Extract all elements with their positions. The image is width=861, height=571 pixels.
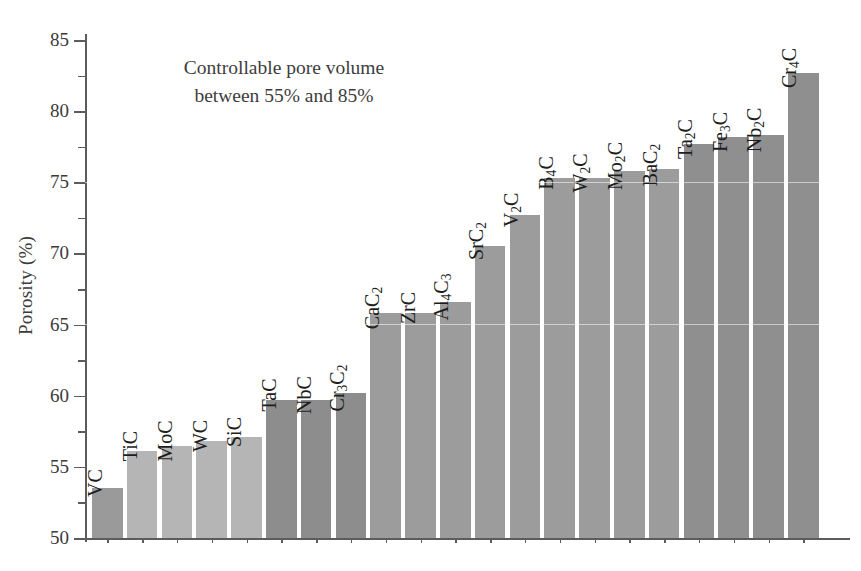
annotation-line-2: between 55% and 85% bbox=[148, 82, 420, 110]
y-tick-minor bbox=[78, 360, 85, 362]
bar: SiC bbox=[231, 437, 262, 538]
bar: W2C bbox=[579, 178, 610, 538]
bar: Al4C3 bbox=[440, 302, 471, 538]
bar-category-label: WC bbox=[189, 420, 212, 452]
x-tick bbox=[142, 538, 144, 543]
bar-category-label: Nb2C bbox=[744, 108, 769, 153]
y-tick-minor bbox=[78, 76, 85, 78]
bar-category-label: Cr4C bbox=[778, 48, 803, 88]
bar: CaC2 bbox=[370, 313, 401, 538]
y-tick-major: 70 bbox=[74, 253, 85, 255]
annotation-line-1: Controllable pore volume bbox=[148, 54, 420, 82]
bar-category-label: B4C bbox=[535, 156, 560, 189]
y-tick-minor bbox=[78, 502, 85, 504]
bar-category-label: ZrC bbox=[397, 292, 420, 324]
bar-category-label: Fe3C bbox=[709, 112, 734, 152]
x-tick bbox=[351, 538, 353, 543]
bar-category-label: BaC2 bbox=[639, 143, 664, 185]
y-tick-major: 60 bbox=[74, 396, 85, 398]
y-tick-label: 60 bbox=[50, 385, 69, 407]
plot-area: 5055606570758085 VCTiCMoCWCSiCTaCNbCCr3C… bbox=[85, 40, 850, 538]
bar-category-label: V2C bbox=[500, 193, 525, 228]
x-tick bbox=[734, 538, 736, 543]
x-tick bbox=[769, 538, 771, 543]
bar: BaC2 bbox=[649, 169, 680, 538]
y-tick-minor bbox=[78, 289, 85, 291]
bar: VC bbox=[92, 488, 123, 538]
y-tick-minor bbox=[78, 218, 85, 220]
x-tick bbox=[455, 538, 457, 543]
bar: V2C bbox=[510, 215, 541, 538]
bar: TiC bbox=[127, 451, 158, 538]
x-tick bbox=[177, 538, 179, 543]
x-tick bbox=[107, 538, 109, 543]
x-tick bbox=[525, 538, 527, 543]
bar-category-label: TiC bbox=[119, 431, 142, 461]
bar-category-label: Mo2C bbox=[604, 142, 629, 190]
y-tick-major: 50 bbox=[74, 538, 85, 540]
y-tick-label: 65 bbox=[50, 314, 69, 336]
bar: Fe3C bbox=[718, 137, 749, 538]
y-tick-label: 55 bbox=[50, 456, 69, 478]
bar-category-label: SrC2 bbox=[465, 222, 490, 260]
porosity-bar-chart: Porosity (%) 5055606570758085 VCTiCMoCWC… bbox=[0, 0, 861, 571]
y-tick-major: 75 bbox=[74, 182, 85, 184]
bar-category-label: VC bbox=[84, 469, 107, 497]
x-tick bbox=[212, 538, 214, 543]
bar-category-label: MoC bbox=[154, 420, 177, 461]
x-tick bbox=[629, 538, 631, 543]
bar: MoC bbox=[162, 446, 193, 538]
x-tick bbox=[595, 538, 597, 543]
y-tick-label: 85 bbox=[50, 29, 69, 51]
bar: TaC bbox=[266, 400, 297, 538]
annotation-controllable-pore-volume: Controllable pore volume between 55% and… bbox=[148, 54, 420, 109]
bar-category-label: TaC bbox=[258, 378, 281, 411]
x-tick bbox=[386, 538, 388, 543]
bar-category-label: W2C bbox=[570, 154, 595, 193]
y-tick-label: 70 bbox=[50, 242, 69, 264]
x-tick bbox=[560, 538, 562, 543]
x-tick bbox=[281, 538, 283, 543]
bar-category-label: Cr3C2 bbox=[326, 364, 351, 411]
bar: Cr4C bbox=[788, 73, 819, 538]
y-tick-minor bbox=[78, 431, 85, 433]
bar: NbC bbox=[301, 400, 332, 538]
y-tick-major: 80 bbox=[74, 111, 85, 113]
y-axis-label: Porosity (%) bbox=[6, 0, 46, 571]
bar: SrC2 bbox=[475, 246, 506, 538]
y-tick-major: 85 bbox=[74, 40, 85, 42]
x-tick bbox=[247, 538, 249, 543]
x-tick bbox=[316, 538, 318, 543]
y-tick-major: 65 bbox=[74, 325, 85, 327]
x-tick bbox=[490, 538, 492, 543]
bar: Cr3C2 bbox=[336, 393, 367, 538]
bar-category-label: SiC bbox=[223, 417, 246, 447]
bar: Ta2C bbox=[684, 144, 715, 538]
x-tick bbox=[699, 538, 701, 543]
y-tick-label: 50 bbox=[50, 527, 69, 549]
bar: ZrC bbox=[405, 313, 436, 538]
x-tick bbox=[664, 538, 666, 543]
bar-category-label: Ta2C bbox=[674, 119, 699, 159]
bar: B4C bbox=[544, 178, 575, 538]
bar-category-label: Al4C3 bbox=[430, 273, 455, 320]
y-tick-label: 80 bbox=[50, 100, 69, 122]
bar-category-label: CaC2 bbox=[361, 287, 386, 329]
x-tick bbox=[421, 538, 423, 543]
bar: Mo2C bbox=[614, 171, 645, 538]
y-tick-minor bbox=[78, 147, 85, 149]
bar: WC bbox=[196, 441, 227, 538]
x-tick bbox=[803, 538, 805, 543]
bar: Nb2C bbox=[753, 135, 784, 538]
bar-category-label: NbC bbox=[293, 376, 316, 414]
y-tick-label: 75 bbox=[50, 171, 69, 193]
